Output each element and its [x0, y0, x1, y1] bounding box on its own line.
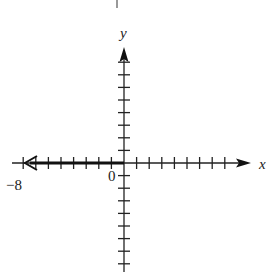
y-axis-label: y: [118, 25, 127, 41]
coordinate-plane: y x 0 −8: [0, 0, 269, 272]
min-x-label: −8: [6, 177, 22, 193]
origin-label: 0: [108, 168, 116, 184]
y-axis: [118, 47, 130, 272]
x-axis-label: x: [258, 156, 266, 172]
